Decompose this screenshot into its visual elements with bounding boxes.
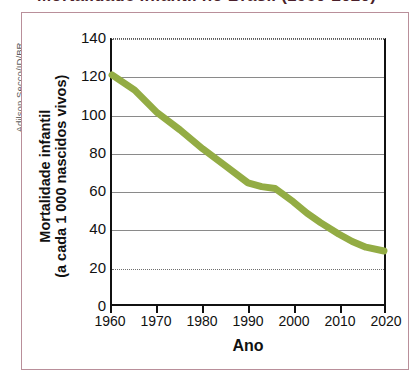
x-tickmark-1980 <box>202 306 204 313</box>
x-tickmark-2000 <box>294 306 296 313</box>
data-series-line <box>112 39 384 304</box>
y-tick-label-120: 120 <box>66 67 106 84</box>
y-tick-label-140: 140 <box>66 29 106 46</box>
x-tick-label-2010: 2010 <box>316 313 364 329</box>
x-tick-label-2020: 2020 <box>362 313 410 329</box>
x-axis-ticks: 1960197019801990200020102020 <box>110 313 386 333</box>
y-tick-label-60: 60 <box>66 182 106 199</box>
y-tick-label-40: 40 <box>66 220 106 237</box>
x-tick-label-2000: 2000 <box>270 313 318 329</box>
x-tickmark-1990 <box>248 306 250 313</box>
x-axis-tickmarks <box>110 306 386 313</box>
x-axis-label: Ano <box>110 337 386 355</box>
chart-title-strip: Mortalidade infantil no Brasil (1960-202… <box>0 0 413 6</box>
x-tickmark-2010 <box>340 306 342 313</box>
x-tick-label-1980: 1980 <box>178 313 226 329</box>
y-tick-label-0: 0 <box>66 297 106 314</box>
x-tick-label-1960: 1960 <box>86 313 134 329</box>
y-tick-label-80: 80 <box>66 144 106 161</box>
y-axis-label-line1: Mortalidade infantil <box>37 110 53 243</box>
x-tick-label-1970: 1970 <box>132 313 180 329</box>
plot-area <box>110 38 386 306</box>
x-tickmark-1970 <box>156 306 158 313</box>
page-title: Mortalidade infantil no Brasil (1960-202… <box>0 0 413 6</box>
x-tick-label-1990: 1990 <box>224 313 272 329</box>
x-tickmark-2020 <box>384 306 386 313</box>
y-tick-label-100: 100 <box>66 106 106 123</box>
y-axis-ticks: 020406080100120140 <box>60 38 106 306</box>
y-tick-label-20: 20 <box>66 259 106 276</box>
x-tickmark-1960 <box>110 306 112 313</box>
